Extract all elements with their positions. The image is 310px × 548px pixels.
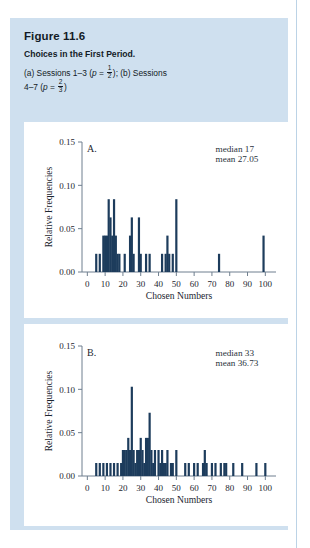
x-tick-label: 40 <box>154 483 164 493</box>
y-tick-label: 0.05 <box>59 428 75 438</box>
histogram-bar <box>218 254 220 272</box>
x-tick-label: 90 <box>243 483 253 493</box>
histogram-bar <box>188 463 190 476</box>
histogram-b-svg: 0.000.050.100.150102030405060708090100Ch… <box>24 324 294 526</box>
histogram-bar <box>184 463 186 476</box>
histogram-bar <box>106 463 108 476</box>
histogram-bar <box>95 463 97 476</box>
histogram-bar <box>95 254 97 272</box>
histogram-bar <box>172 254 174 272</box>
x-tick-label: 20 <box>118 279 128 289</box>
histogram-bar <box>124 254 126 272</box>
x-tick-label: 50 <box>172 279 182 289</box>
figure-caption-block: Figure 11.6 Choices in the First Period.… <box>24 30 272 94</box>
x-tick-label: 0 <box>85 279 90 289</box>
panel-letter: A. <box>87 143 97 154</box>
x-tick-label: 100 <box>259 279 273 289</box>
x-tick-label: 40 <box>154 279 164 289</box>
histogram-bar <box>133 254 135 272</box>
y-tick-label: 0.10 <box>59 385 75 395</box>
stat-annotation: median 17 <box>215 144 254 154</box>
histogram-bar <box>161 254 163 272</box>
x-tick-label: 30 <box>136 279 146 289</box>
histogram-bar <box>232 463 234 476</box>
subtitle-fraction-one-half: 12 <box>107 65 113 79</box>
figure-title: Choices in the First Period. <box>24 49 272 59</box>
fraction-denominator: 3 <box>58 86 64 94</box>
x-tick-label: 10 <box>101 483 111 493</box>
histogram-bar <box>225 463 227 476</box>
histogram-bar <box>118 254 120 272</box>
histogram-bar <box>211 463 213 476</box>
histogram-bar <box>262 236 264 272</box>
y-tick-label: 0.15 <box>59 341 75 351</box>
x-tick-label: 80 <box>225 483 235 493</box>
page-margin-rule <box>296 0 297 548</box>
x-tick-label: 90 <box>243 279 253 289</box>
y-tick-label: 0.05 <box>59 224 75 234</box>
histogram-bar <box>140 254 142 272</box>
y-tick-label: 0.10 <box>59 181 75 191</box>
histogram-bar <box>175 199 177 272</box>
fraction-denominator: 2 <box>107 72 113 80</box>
figure-number: Figure 11.6 <box>24 30 272 42</box>
histogram-bar <box>264 463 266 476</box>
histogram-panel-b: 0.000.050.100.150102030405060708090100Ch… <box>24 324 294 526</box>
x-tick-label: 20 <box>118 483 128 493</box>
subtitle-fraction-two-thirds: 23 <box>58 79 64 93</box>
subtitle-equals-1: = <box>97 68 107 78</box>
x-tick-label: 50 <box>172 483 182 493</box>
histogram-bar <box>175 450 177 476</box>
x-axis-title: Chosen Numbers <box>146 494 213 505</box>
histogram-bar <box>193 463 195 476</box>
histogram-bar <box>214 463 216 476</box>
histogram-bar <box>145 254 147 272</box>
fraction-numerator: 2 <box>58 79 64 86</box>
histogram-bar <box>102 463 104 476</box>
histogram-a-svg: 0.000.050.100.150102030405060708090100Ch… <box>24 122 294 318</box>
x-tick-label: 70 <box>207 483 217 493</box>
x-tick-label: 70 <box>207 279 217 289</box>
histogram-bar <box>117 463 119 476</box>
figure-page: Figure 11.6 Choices in the First Period.… <box>0 0 310 548</box>
histogram-bar <box>109 463 111 476</box>
stat-annotation: median 33 <box>215 348 254 358</box>
histogram-bar <box>205 463 207 476</box>
histogram-panel-a: 0.000.050.100.150102030405060708090100Ch… <box>24 122 294 318</box>
histogram-bar <box>197 463 199 476</box>
histogram-bar <box>220 463 222 476</box>
histogram-bar <box>241 463 243 476</box>
histogram-bar <box>172 463 174 476</box>
histogram-bar <box>99 254 101 272</box>
histogram-bar <box>255 463 257 476</box>
subtitle-segment-b: ); (b) Sessions <box>113 68 167 78</box>
panel-letter: B. <box>87 347 96 358</box>
histogram-bar <box>154 450 156 476</box>
stat-annotation: mean 36.73 <box>215 358 258 368</box>
y-tick-label: 0.15 <box>59 137 75 147</box>
stat-annotation: mean 27.05 <box>215 154 258 164</box>
x-tick-label: 30 <box>136 483 146 493</box>
x-tick-label: 60 <box>190 279 200 289</box>
figure-panel: Figure 11.6 Choices in the First Period.… <box>10 18 288 530</box>
x-tick-label: 60 <box>190 483 200 493</box>
x-axis-title: Chosen Numbers <box>146 290 213 301</box>
x-tick-label: 100 <box>259 483 273 493</box>
y-axis-title: Relative Frequencies <box>43 370 54 451</box>
y-axis-title: Relative Frequencies <box>43 166 54 247</box>
histogram-bar <box>149 254 151 272</box>
histogram-bar <box>113 463 115 476</box>
x-tick-label: 10 <box>101 279 111 289</box>
subtitle-segment-c: 4–7 ( <box>24 82 43 92</box>
subtitle-equals-2: = <box>48 82 58 92</box>
y-tick-label: 0.00 <box>59 471 75 481</box>
figure-subtitle: (a) Sessions 1–3 (p = 12); (b) Sessions4… <box>24 65 272 94</box>
subtitle-segment-a: (a) Sessions 1–3 ( <box>24 68 92 78</box>
histogram-bar <box>99 463 101 476</box>
x-tick-label: 0 <box>85 483 90 493</box>
histogram-bar <box>168 254 170 272</box>
fraction-numerator: 1 <box>107 65 113 72</box>
x-tick-label: 80 <box>225 279 235 289</box>
histogram-bar <box>166 450 168 476</box>
subtitle-segment-d: ) <box>64 82 67 92</box>
